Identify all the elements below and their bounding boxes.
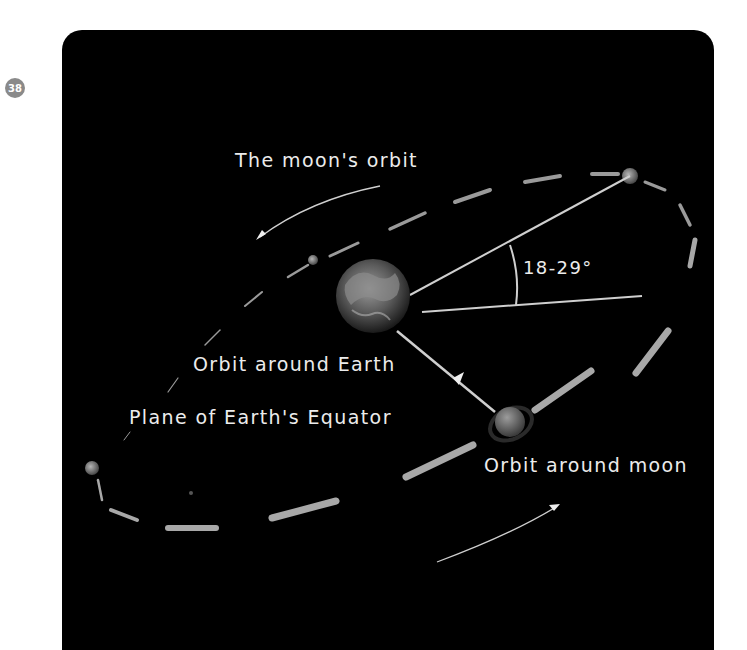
diagram-title: The moon's orbit — [235, 149, 418, 171]
page-number-badge: 38 — [5, 78, 25, 98]
orbit-direction-arrow-bottom — [437, 507, 556, 562]
diagram-panel: The moon's orbit 18-29° Orbit around Ear… — [62, 30, 714, 650]
orbit-earth-label: Orbit around Earth — [193, 353, 396, 375]
orbit-marker-icon — [308, 255, 318, 265]
orbit-diagram — [62, 30, 714, 650]
orbit-moon-label: Orbit around moon — [484, 454, 688, 476]
angle-arc — [510, 245, 517, 305]
earth-icon — [336, 259, 410, 333]
arrow-icon — [256, 230, 266, 240]
equator-plane-line — [422, 296, 642, 312]
orbit-direction-arrow-top — [260, 186, 380, 237]
arrow-icon — [453, 372, 464, 385]
orbit-marker-icon — [85, 461, 99, 475]
angle-label: 18-29° — [523, 257, 593, 278]
orbit-plane-line — [410, 176, 630, 295]
moon-icon — [485, 401, 538, 447]
earth-moon-line — [397, 331, 495, 412]
equator-plane-label: Plane of Earth's Equator — [129, 406, 392, 428]
